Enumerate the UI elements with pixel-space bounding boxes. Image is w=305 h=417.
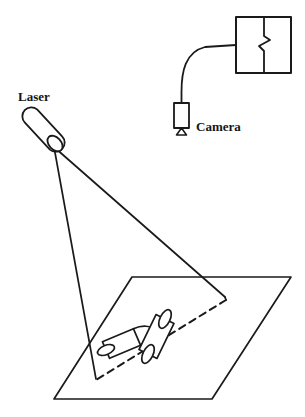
label-camera: Camera: [196, 119, 241, 134]
beam-right-edge: [54, 147, 225, 297]
beam-left-edge: [54, 147, 96, 379]
label-laser: Laser: [18, 89, 50, 104]
camera-to-computer-cable: [182, 45, 237, 103]
computer-group: [236, 17, 291, 73]
camera-group: [174, 103, 189, 135]
ground-plane-group: [54, 277, 291, 399]
camera-body: [174, 103, 189, 128]
ground-plane: [54, 277, 291, 399]
diagram-canvas: Laser Camera: [0, 0, 305, 417]
scene-svg: Laser Camera: [0, 0, 305, 417]
camera-tripod-mount-icon: [177, 128, 187, 135]
cable-group: [182, 45, 237, 103]
laser-emitter-group: [22, 107, 65, 154]
